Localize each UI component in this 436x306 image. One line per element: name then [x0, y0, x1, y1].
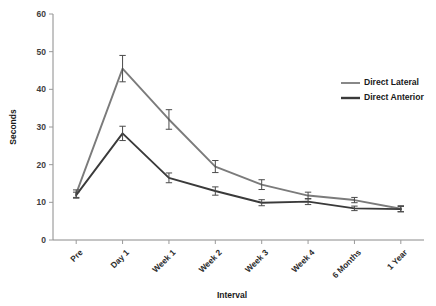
y-axis-tick-label: 60 [37, 9, 47, 19]
x-axis-tick-label: Week 4 [289, 247, 316, 274]
x-axis-tick-label: Week 2 [197, 247, 224, 274]
error-bar [166, 110, 172, 130]
y-axis-tick-label: 30 [37, 122, 47, 132]
y-axis-tick-label: 40 [37, 84, 47, 94]
x-axis-title: Interval [217, 290, 247, 300]
y-axis-tick-label: 10 [37, 197, 47, 207]
legend-item-2[interactable]: Direct Anterior [341, 92, 425, 102]
y-axis-tick-label: 0 [41, 235, 46, 245]
legend-label: Direct Lateral [364, 77, 419, 87]
x-axis-tick-label: Pre [68, 247, 85, 264]
x-axis-tick-label: 1 Year [385, 247, 410, 272]
line-chart: 0102030405060 Seconds PreDay 1Week 1Week… [0, 0, 436, 306]
legend-label: Direct Anterior [364, 92, 425, 102]
x-axis-tick-label: 6 Months [330, 247, 363, 280]
x-axis-tick-label: Week 3 [243, 247, 270, 274]
series-line [76, 69, 401, 209]
y-axis-ticks: 0102030405060 [37, 9, 53, 245]
chart-legend: Direct LateralDirect Anterior [341, 77, 425, 102]
x-axis-tick-label: Day 1 [108, 247, 131, 270]
x-axis-ticks: PreDay 1Week 1Week 2Week 3Week 46 Months… [68, 240, 410, 280]
error-bar [119, 55, 125, 81]
legend-item-1[interactable]: Direct Lateral [341, 77, 419, 87]
series-layer [73, 55, 404, 211]
y-axis-title: Seconds [8, 109, 18, 145]
chart-container: 0102030405060 Seconds PreDay 1Week 1Week… [0, 0, 436, 306]
y-axis-group: 0102030405060 Seconds [8, 9, 53, 245]
error-bar [119, 126, 125, 140]
y-axis-tick-label: 20 [37, 160, 47, 170]
y-axis-tick-label: 50 [37, 47, 47, 57]
x-axis-group: PreDay 1Week 1Week 2Week 3Week 46 Months… [53, 240, 424, 300]
x-axis-tick-label: Week 1 [150, 247, 177, 274]
